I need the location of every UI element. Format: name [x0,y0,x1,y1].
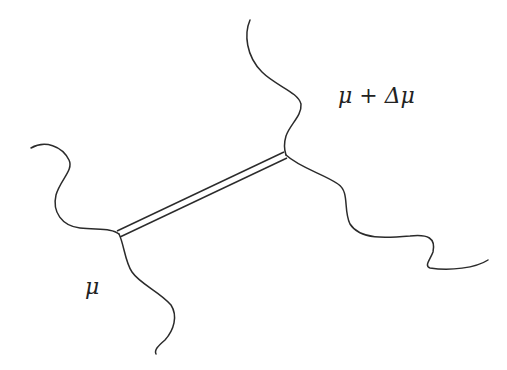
mu-label: μ [85,276,99,298]
double-bond-connector [117,152,287,237]
mu-plus-delta-mu-label: μ + Δμ [338,85,415,107]
right-lower-strand [286,155,488,269]
left-upper-strand [31,144,119,234]
string-junction-diagram [0,0,507,370]
left-lower-strand [119,234,175,354]
right-upper-strand [247,20,301,155]
